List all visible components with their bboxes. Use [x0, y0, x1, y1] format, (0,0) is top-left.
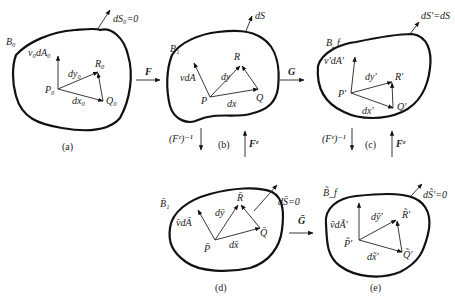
normal-label-b: vdA: [180, 72, 196, 83]
point-p-b: P: [200, 95, 207, 106]
normal-arrow-d: [198, 210, 215, 240]
panel-d: dS̄=0 B̄₁ v̄dĀ dȳ dx̄ P̄ Q̄ R̄ (d): [160, 185, 300, 294]
normal-arrow-b: [194, 63, 210, 97]
vector-dy-label-c: dy′: [365, 71, 377, 82]
vector-qr-d: [241, 205, 260, 228]
vector-dx-e: [359, 240, 402, 252]
surface-normal-arrow-c: [410, 22, 419, 34]
point-r-a: R₀: [94, 58, 105, 69]
map-label-gbar: Ḡ: [298, 215, 306, 226]
panel-a: dS₀=0 B₀ v₀dA₀ dy₀ dx₀ P₀ Q₀ R₀ (a): [6, 10, 138, 153]
vector-dy-label-b: dy: [221, 71, 231, 82]
normal-arrow-c: [351, 57, 355, 93]
caption-e: (e): [370, 282, 381, 294]
vector-qr-a: [98, 73, 103, 101]
map-label-b-up: Fᵉ: [248, 138, 259, 149]
vector-qr-c: [392, 83, 393, 108]
caption-a: (a): [62, 141, 73, 153]
vector-dx-label-c: dx′: [362, 105, 374, 116]
map-label-f: F: [144, 66, 152, 77]
vector-dy-c: [351, 82, 392, 93]
panel-e: dS̃′=0 B̃_f ṽdÃ′ dỹ′ dx̃′ P̃′ Q̃′ R̃′ (e…: [323, 184, 447, 294]
map-label-b-down: (Fᵉ)⁻¹: [169, 133, 193, 145]
point-q-a: Q₀: [106, 95, 117, 106]
surface-normal-arrow-a: [97, 10, 110, 30]
vector-qr-e: [397, 221, 402, 252]
body-label-d: B̄₁: [160, 198, 170, 209]
point-q-b: Q: [256, 92, 264, 103]
normal-label-c: v′dA′: [324, 55, 345, 66]
vector-dy-e: [359, 220, 396, 240]
body-label-b: B₁: [170, 43, 180, 54]
map-arrow-f: F: [136, 66, 160, 80]
vector-dy-label-d: dȳ: [215, 207, 225, 218]
point-r-b: R: [233, 51, 240, 62]
vector-qr-b: [242, 66, 258, 89]
surface-label-a: dS₀=0: [113, 13, 138, 24]
map-label-g: G: [288, 66, 296, 77]
map-arrow-g: G: [280, 66, 304, 80]
body-label-c: B_f: [326, 37, 341, 48]
caption-d: (d): [215, 282, 227, 294]
vector-dx-label-b: dx: [227, 98, 237, 109]
panel-b: dS B₁ vdA dy dx P Q R (Fᵉ)⁻¹ (b) Fᵉ: [167, 10, 278, 157]
vector-dx-label-e: dx̃′: [367, 251, 379, 262]
point-p-a: P₀: [44, 84, 55, 95]
surface-label-d: dS̄=0: [278, 196, 300, 207]
surface-label-e: dS̃′=0: [423, 188, 447, 200]
normal-label-e: ṽdÃ′: [330, 219, 349, 230]
point-p-e: P̃′: [343, 237, 353, 249]
vector-dx-label-a: dx₀: [72, 95, 85, 106]
point-p-c: P′: [337, 88, 347, 99]
map-label-c-down: (Fᵉ)⁻¹: [322, 133, 346, 145]
point-q-c: Q′: [397, 101, 407, 112]
surface-normal-arrow-b: [246, 16, 252, 31]
vector-dy-label-a: dy₀: [68, 68, 81, 79]
map-label-c-up: Fᵉ: [395, 138, 406, 149]
caption-c: (c): [365, 139, 376, 151]
body-label-e: B̃_f: [323, 186, 338, 198]
deformation-mapping-diagram: dS₀=0 B₀ v₀dA₀ dy₀ dx₀ P₀ Q₀ R₀ (a) F dS…: [0, 0, 455, 300]
surface-label-b: dS: [255, 10, 265, 21]
point-r-d: R̄: [236, 192, 243, 203]
map-arrow-gbar: Ḡ: [289, 215, 313, 233]
body-outline-a: [13, 29, 131, 130]
vector-dy-label-e: dỹ′: [371, 211, 383, 222]
panel-c: dS′=dS B_f v′dA′ dy′ dx′ P′ Q′ R′ (Fᵉ)⁻¹…: [318, 10, 450, 157]
vector-dx-label-d: dx̄: [229, 239, 239, 250]
point-p-d: P̄: [203, 243, 210, 254]
body-label-a: B₀: [6, 36, 16, 47]
point-r-c: R′: [394, 71, 404, 82]
point-q-e: Q̃′: [403, 248, 413, 260]
point-q-d: Q̄: [260, 227, 268, 238]
surface-normal-arrow-e: [411, 184, 422, 196]
normal-label-a: v₀dA₀: [28, 47, 51, 58]
surface-label-c: dS′=dS: [421, 10, 450, 21]
caption-b: (b): [218, 139, 230, 151]
point-r-e: R̃′: [401, 208, 411, 220]
normal-label-d: v̄dĀ: [176, 217, 192, 228]
body-outline-e: [326, 194, 430, 277]
